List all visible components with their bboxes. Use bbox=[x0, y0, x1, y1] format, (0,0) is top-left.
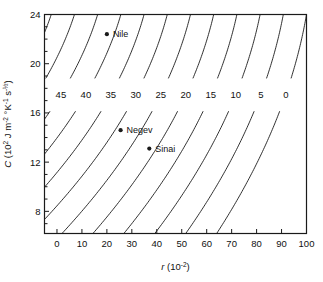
x-tick-30: 30 bbox=[127, 238, 138, 249]
contour-line-15 bbox=[217, 15, 236, 79]
contour-line-50 bbox=[15, 111, 24, 124]
contour-label-40: 40 bbox=[81, 89, 92, 100]
x-tick-80: 80 bbox=[251, 238, 262, 249]
x-tick-90: 90 bbox=[276, 238, 287, 249]
contour-line-35 bbox=[15, 111, 101, 219]
contour-line-35 bbox=[119, 15, 144, 79]
x-axis-title: r (10-2) bbox=[161, 261, 190, 272]
x-tick-0: 0 bbox=[54, 238, 59, 249]
contour-line-60 bbox=[15, 15, 28, 46]
x-tick-100: 100 bbox=[299, 238, 315, 249]
contour-line-5 bbox=[267, 15, 284, 79]
point-marker-sinai bbox=[147, 147, 151, 151]
y-tick-16: 16 bbox=[30, 107, 41, 118]
contour-label-25: 25 bbox=[156, 89, 167, 100]
y-tick-8: 8 bbox=[35, 206, 40, 217]
y-axis-title: C (102 J m-2 °K-1 s-½) bbox=[2, 80, 13, 167]
contour-label-15: 15 bbox=[206, 89, 217, 100]
contour-plot-svg: 4540353025201510500102030405060708090100… bbox=[0, 0, 323, 282]
contour-label-0: 0 bbox=[283, 89, 288, 100]
point-label-sinai: Sinai bbox=[155, 144, 175, 154]
contour-line-40 bbox=[95, 15, 121, 79]
x-tick-40: 40 bbox=[151, 238, 162, 249]
y-tick-20: 20 bbox=[30, 58, 41, 69]
x-tick-60: 60 bbox=[201, 238, 212, 249]
axis-tick-labels: 0102030405060708090100812162024 bbox=[30, 9, 315, 249]
point-marker-nile bbox=[105, 32, 109, 36]
contour-line-45 bbox=[70, 15, 97, 79]
contour-label-30: 30 bbox=[131, 89, 142, 100]
contour-label-35: 35 bbox=[106, 89, 117, 100]
contour-line-30 bbox=[144, 15, 167, 79]
contour-line-10 bbox=[242, 15, 260, 79]
contour-line-50 bbox=[46, 15, 75, 79]
point-label-nile: Nile bbox=[113, 29, 129, 39]
point-label-negev: Negev bbox=[127, 125, 154, 135]
axis-ticks bbox=[45, 15, 307, 234]
y-tick-12: 12 bbox=[30, 157, 41, 168]
contour-lines bbox=[15, 15, 307, 234]
point-marker-negev bbox=[119, 128, 123, 132]
x-tick-20: 20 bbox=[102, 238, 113, 249]
contour-label-45: 45 bbox=[56, 89, 67, 100]
contour-labels: 454035302520151050 bbox=[56, 89, 289, 100]
x-tick-70: 70 bbox=[226, 238, 237, 249]
contour-chart-figure: 4540353025201510500102030405060708090100… bbox=[0, 0, 323, 282]
y-tick-24: 24 bbox=[30, 9, 41, 20]
x-tick-50: 50 bbox=[176, 238, 187, 249]
contour-line-10 bbox=[155, 111, 229, 233]
contour-label-10: 10 bbox=[231, 89, 242, 100]
contour-label-5: 5 bbox=[258, 89, 263, 100]
contour-line-0 bbox=[217, 111, 280, 233]
contour-line-0 bbox=[291, 15, 306, 79]
contour-line-25 bbox=[168, 15, 190, 79]
x-tick-10: 10 bbox=[77, 238, 88, 249]
plot-frame bbox=[45, 15, 307, 234]
contour-line-20 bbox=[193, 15, 214, 79]
contour-label-20: 20 bbox=[181, 89, 192, 100]
